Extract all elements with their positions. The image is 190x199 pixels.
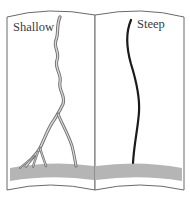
open-book-diagram: Shallow Steep: [0, 0, 190, 199]
steep-label: Steep: [137, 18, 165, 31]
left-page: [7, 11, 95, 190]
shallow-label: Shallow: [13, 21, 54, 34]
